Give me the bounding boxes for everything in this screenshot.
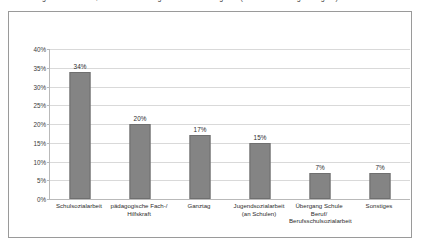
bar-value-label: 7% (315, 164, 324, 171)
bar[interactable] (190, 135, 211, 199)
figure-caption: Abbildung 7: Arbeitsfelder, in denen die… (0, 0, 428, 9)
y-axis-tick-label: 0% (37, 196, 46, 203)
y-axis-tick-label: 35% (33, 64, 46, 71)
bar-value-label: 15% (254, 134, 267, 141)
bar[interactable] (250, 143, 271, 199)
plot-area: 0%5%10%15%20%25%30%35%40% 34%20%17%15%7%… (49, 49, 410, 200)
y-axis-tick-label: 10% (33, 158, 46, 165)
bar-value-label: 20% (134, 115, 147, 122)
y-axis-tick-label: 15% (33, 139, 46, 146)
chart-frame: 0%5%10%15%20%25%30%35%40% 34%20%17%15%7%… (8, 11, 412, 238)
bar-group[interactable]: 34% (50, 49, 110, 199)
bar-group[interactable]: 15% (230, 49, 290, 199)
bar[interactable] (370, 173, 391, 199)
x-axis-category-label: Ganztag (169, 202, 229, 210)
bar-group[interactable]: 20% (110, 49, 170, 199)
x-axis-category-label: Übergang Schule Beruf/Berufsschulsoziala… (289, 202, 349, 225)
y-axis-tick-mark (47, 199, 50, 200)
y-axis-tick-label: 40% (33, 46, 46, 53)
figure-caption-text: Abbildung 7: Arbeitsfelder, in denen die… (14, 0, 338, 3)
x-axis-category-label: Schulsozialarbeit (49, 202, 109, 210)
bar-group[interactable]: 7% (290, 49, 350, 199)
bar-value-label: 17% (194, 126, 207, 133)
x-axis-category-label: pädagogische Fach-/Hilfskraft (109, 202, 169, 217)
x-axis-category-label: Sonstiges (349, 202, 409, 210)
y-axis-tick-label: 30% (33, 83, 46, 90)
y-axis-tick-label: 5% (37, 177, 46, 184)
bar[interactable] (130, 124, 151, 199)
bar[interactable] (70, 72, 91, 200)
y-axis-tick-label: 20% (33, 121, 46, 128)
bar-value-label: 34% (74, 63, 87, 70)
bar-value-label: 7% (375, 164, 384, 171)
bar[interactable] (310, 173, 331, 199)
bars: 34%20%17%15%7%7% (50, 49, 410, 199)
y-axis-tick-label: 25% (33, 102, 46, 109)
x-axis-labels: Schulsozialarbeitpädagogische Fach-/Hilf… (49, 202, 409, 234)
bar-group[interactable]: 7% (350, 49, 410, 199)
bar-group[interactable]: 17% (170, 49, 230, 199)
x-axis-category-label: Jugendsozialarbeit(an Schulen) (229, 202, 289, 217)
